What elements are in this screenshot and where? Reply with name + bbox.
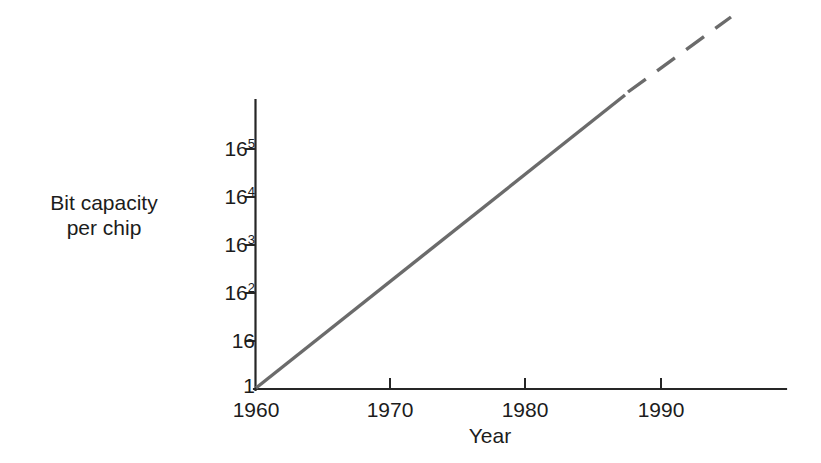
- x-axis-ticks: [390, 378, 661, 389]
- x-axis-title: Year: [469, 424, 511, 449]
- series-observed-line: [256, 95, 625, 388]
- x-tick-label-1960: 1960: [233, 398, 280, 423]
- y-tick-label-16: 16: [232, 329, 255, 354]
- x-tick-label-1990: 1990: [638, 398, 685, 423]
- x-tick-label-1980: 1980: [502, 398, 549, 423]
- y-tick-label-16e3: 163: [224, 233, 255, 258]
- x-tick-label-1970: 1970: [367, 398, 414, 423]
- y-tick-label-16e2: 162: [224, 281, 255, 306]
- y-tick-label-1: 1: [243, 374, 255, 399]
- chart-figure: 165 164 163 162 16 1 1960 1970 1980 1990…: [0, 0, 821, 463]
- y-tick-label-16e4: 164: [224, 185, 255, 210]
- y-axis-title: Bit capacity per chip: [50, 191, 157, 241]
- y-tick-label-16e5: 165: [224, 137, 255, 162]
- y-axis-title-line-1: Bit capacity: [50, 191, 157, 214]
- series-projected-line: [628, 17, 731, 92]
- y-axis-title-line-2: per chip: [50, 216, 157, 241]
